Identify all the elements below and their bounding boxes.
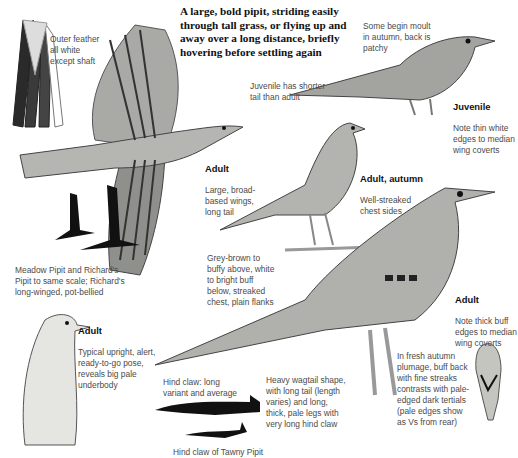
- note-title: Adult: [78, 325, 173, 336]
- note-title: Adult: [455, 294, 518, 305]
- note-adult-flight: Adult Large, broad- based wings, long ta…: [205, 152, 285, 218]
- note-autumn-back: In fresh autumn plumage, buff back with …: [397, 340, 487, 428]
- note-text: Typical upright, alert, ready-to-go pose…: [78, 347, 155, 390]
- note-text: Heavy wagtail shape, with long tail (len…: [266, 375, 346, 429]
- note-adult-upright: Adult Typical upright, alert, ready-to-g…: [78, 314, 173, 391]
- note-adult-autumn: Adult, autumn Well-streaked chest sides: [360, 162, 450, 217]
- note-tawny-claw: Hind claw of Tawny Pipit: [173, 436, 293, 458]
- flight-silhouettes-illustration: [25, 185, 145, 255]
- note-title: Juvenile: [453, 101, 518, 112]
- adult-upright-illustration: [15, 305, 85, 445]
- note-silhouettes: Meadow Pipit and Richard's Pipit to same…: [15, 254, 165, 298]
- note-text: Juvenile has shorter tail than adult: [250, 81, 325, 102]
- note-text: Some begin moult in autumn, back is patc…: [363, 21, 431, 53]
- note-text: Well-streaked chest sides: [360, 195, 411, 216]
- note-text: In fresh autumn plumage, buff back with …: [397, 351, 469, 427]
- note-text: Outer feather all white except shaft: [50, 34, 99, 66]
- note-text: Hind claw: long variant and average: [163, 377, 237, 398]
- note-text: Grey-brown to buffy above, white to brig…: [207, 253, 274, 307]
- note-text: Meadow Pipit and Richard's Pipit to same…: [15, 265, 125, 297]
- note-hind-claw: Hind claw: long variant and average: [163, 366, 258, 399]
- note-text: Note thin white edges to median wing cov…: [453, 123, 515, 155]
- note-outer-feather: Outer feather all white except shaft: [50, 23, 130, 67]
- note-title: Adult, autumn: [360, 173, 450, 184]
- note-juvenile: Juvenile Note thin white edges to median…: [453, 90, 518, 156]
- note-juvenile-tail: Juvenile has shorter tail than adult: [250, 70, 360, 103]
- note-text: Hind claw of Tawny Pipit: [173, 447, 263, 457]
- note-title: Adult: [205, 163, 285, 174]
- note-text: Large, broad- based wings, long tail: [205, 185, 255, 217]
- note-plumage: Grey-brown to buffy above, white to brig…: [207, 242, 292, 308]
- note-moult: Some begin moult in autumn, back is patc…: [363, 10, 463, 54]
- note-shape: Heavy wagtail shape, with long tail (len…: [266, 364, 366, 430]
